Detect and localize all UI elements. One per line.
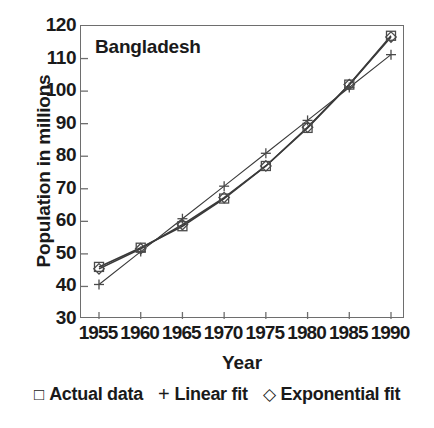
chart-page: Population in millions 12011010090807060… [0,0,434,428]
y-tick-label: 70 [32,177,76,199]
x-tick-label: 1990 [360,322,420,344]
y-tick-label: 40 [32,274,76,296]
y-tick-label: 110 [32,47,76,69]
y-tick-label: 120 [32,14,76,36]
y-axis-tick-labels: 12011010090807060504030 [26,0,76,428]
diamond-marker-icon: ◇ [263,387,276,402]
legend-item: +Linear fit [158,384,248,405]
legend-item: □Actual data [34,384,143,405]
plus-marker-icon: + [158,387,170,402]
chart-legend: □Actual data+Linear fit◇Exponential fit [0,384,434,405]
legend-label: Linear fit [175,384,248,405]
x-axis-title: Year [80,352,404,374]
y-tick-label: 100 [32,79,76,101]
y-tick-label: 50 [32,242,76,264]
legend-label: Actual data [49,384,143,405]
x-axis-tick-labels: 19551960196519701975198019851990 [0,322,434,352]
y-tick-label: 90 [32,112,76,134]
square-marker-icon: □ [34,387,44,402]
legend-label: Exponential fit [281,384,401,405]
y-tick-label: 60 [32,209,76,231]
plot-svg [81,26,405,319]
plot-annotation-label: Bangladesh [95,36,201,58]
legend-item: ◇Exponential fit [263,384,401,405]
plot-area: Bangladesh [80,25,404,318]
y-tick-label: 80 [32,144,76,166]
